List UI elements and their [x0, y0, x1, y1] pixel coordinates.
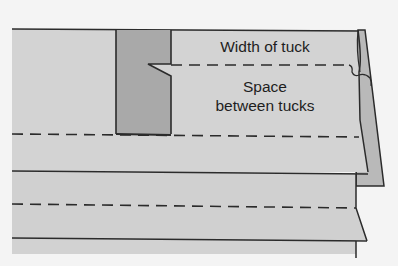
tuck-diagram: Width of tuck Space between tucks	[0, 0, 398, 266]
label-width-of-tuck: Width of tuck	[205, 37, 325, 56]
label-space-line2: between tucks	[180, 96, 350, 115]
fabric-panel-lower	[12, 172, 367, 240]
fabric-panel-bottom	[12, 240, 356, 254]
label-space-between-tucks: Space between tucks	[180, 77, 350, 115]
label-space-line1: Space	[180, 77, 350, 96]
tuck-strip	[116, 30, 171, 134]
diagram-graphic	[0, 0, 398, 266]
